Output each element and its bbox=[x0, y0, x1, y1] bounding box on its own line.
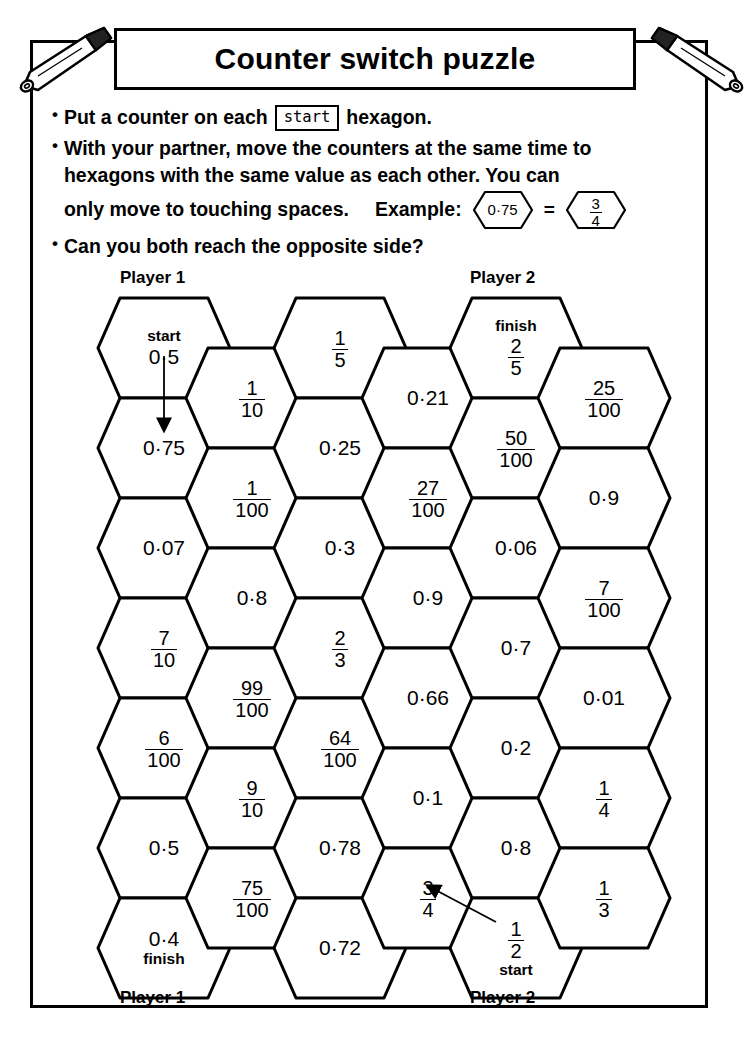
equals-sign: = bbox=[544, 197, 555, 224]
instruction-item-place-counter: • Put a counter on each start hexagon. bbox=[52, 104, 692, 132]
instructions-list: • Put a counter on each start hexagon. •… bbox=[52, 104, 692, 264]
pencil-left-icon bbox=[8, 24, 118, 100]
instruction-line-2: hexagons with the same value as each oth… bbox=[64, 162, 692, 190]
title-box: Counter switch puzzle bbox=[114, 28, 636, 90]
instruction-item-opposite-side: • Can you both reach the opposite side? bbox=[52, 233, 692, 261]
pencil-right-icon bbox=[645, 24, 748, 100]
instruction-line-1: With your partner, move the counters at … bbox=[64, 135, 692, 163]
hexagon-cell[interactable] bbox=[538, 548, 670, 648]
bullet-icon: • bbox=[52, 233, 58, 255]
start-chip-label: start bbox=[275, 105, 340, 131]
bullet-icon: • bbox=[52, 104, 58, 126]
instruction-line-3: only move to touching spaces. Example: 0… bbox=[64, 190, 692, 230]
example-hexagon-right: 3 4 bbox=[565, 190, 627, 230]
caption-player1-top: Player 1 bbox=[120, 268, 185, 288]
instruction-item-move-counters: • With your partner, move the counters a… bbox=[52, 135, 692, 230]
example-hexagon-left: 0·75 bbox=[472, 190, 534, 230]
instruction-text-pre: Put a counter on each bbox=[64, 104, 268, 132]
example-label: Example: bbox=[375, 196, 462, 224]
example-left-value: 0·75 bbox=[488, 199, 518, 220]
bullet-icon: • bbox=[52, 135, 58, 157]
instruction-line-3-text: only move to touching spaces. bbox=[64, 196, 349, 224]
instruction-text-post: hexagon. bbox=[346, 104, 432, 132]
page-title: Counter switch puzzle bbox=[215, 42, 536, 76]
hexagon-cell[interactable] bbox=[538, 848, 670, 948]
hexagon-cell[interactable] bbox=[538, 748, 670, 848]
caption-player2-bottom: Player 2 bbox=[470, 988, 535, 1008]
caption-player2-top: Player 2 bbox=[470, 268, 535, 288]
caption-player1-bottom: Player 1 bbox=[120, 988, 185, 1008]
instruction-text-opposite: Can you both reach the opposite side? bbox=[64, 233, 692, 261]
example-right-denominator: 4 bbox=[590, 212, 602, 228]
example-right-value: 3 4 bbox=[590, 193, 602, 228]
hexagon-cell[interactable] bbox=[538, 348, 670, 448]
hexagon-cell[interactable] bbox=[538, 448, 670, 548]
example-right-numerator: 3 bbox=[590, 196, 602, 211]
hexagon-cell[interactable] bbox=[538, 648, 670, 748]
